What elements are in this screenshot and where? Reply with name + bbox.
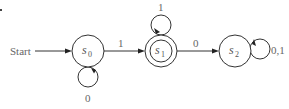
corner-mark: [0, 9, 2, 11]
state-s0: s 0: [72, 35, 104, 67]
start-arrowhead-icon: [65, 49, 72, 54]
s0-loop-label: 0: [85, 92, 91, 104]
state-s1: s 1: [145, 35, 177, 67]
edge-s1-s2-label: 0: [193, 37, 199, 49]
state-s1-name: s: [155, 43, 160, 57]
start-label: Start: [10, 45, 31, 57]
edge-s0-s1-arrowhead-icon: [138, 49, 145, 54]
state-s0-subscript: 0: [88, 50, 92, 59]
s1-self-loop: [151, 15, 171, 35]
state-s2-subscript: 2: [235, 50, 239, 59]
state-s0-name: s: [82, 43, 87, 57]
state-diagram: Start 0 s 0 1 1 s 1 0 0,1 s 2: [0, 0, 289, 109]
s1-loop-label: 1: [158, 1, 164, 13]
state-s2: s 2: [219, 35, 251, 67]
state-s1-subscript: 1: [161, 50, 165, 59]
state-s2-name: s: [229, 43, 234, 57]
s2-loop-label: 0,1: [271, 44, 285, 56]
edge-s1-s2-arrowhead-icon: [212, 49, 219, 54]
edge-s0-s1-label: 1: [118, 37, 124, 49]
